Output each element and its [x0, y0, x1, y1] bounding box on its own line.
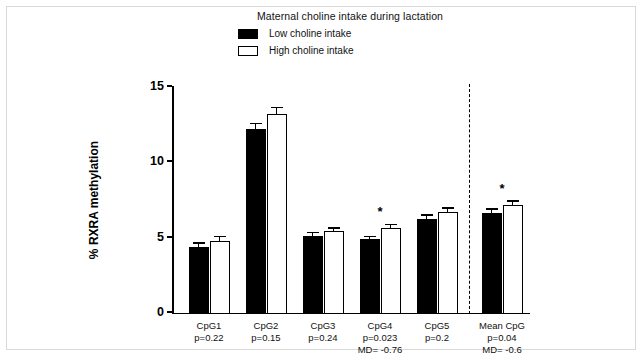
error-bar-stem	[390, 225, 392, 228]
error-bar-stem	[426, 216, 428, 219]
bar-cpg1-high	[210, 241, 230, 314]
x-label-pvalue: p=0.24	[308, 332, 337, 343]
x-label-md: MD= -0.6	[479, 344, 525, 355]
error-bar-cap	[364, 236, 376, 238]
y-axis-line	[172, 86, 174, 314]
legend-swatch-high-icon	[238, 46, 258, 56]
bar-cpg2-high	[267, 114, 287, 314]
y-tick-label: 5	[157, 230, 164, 244]
bar-cpg2-low	[246, 129, 266, 314]
x-label-pvalue: p=0.15	[251, 332, 280, 343]
error-bar-stem	[276, 108, 278, 113]
y-tick-5: 5	[157, 230, 172, 244]
group-separator-line	[469, 84, 470, 314]
error-bar-cap	[307, 232, 319, 234]
y-axis-title: % RXRA methylation	[87, 141, 101, 259]
error-bar-stem	[255, 124, 257, 129]
x-label-pvalue: p=0.04	[479, 332, 525, 343]
y-tick-label: 15	[150, 79, 164, 93]
bar-cpg5-high	[438, 212, 458, 314]
bar-mean-cpg-low	[482, 213, 502, 314]
error-bar-stem	[219, 237, 221, 241]
x-label-name: CpG2	[251, 320, 280, 331]
error-bar-cap	[250, 123, 262, 125]
legend-swatch-low-icon	[238, 29, 258, 39]
x-label-name: CpG3	[308, 320, 337, 331]
figure-container: Maternal choline intake during lactation…	[0, 0, 642, 356]
bar-cpg4-high	[381, 228, 401, 314]
error-bar-cap	[385, 224, 397, 226]
x-label-group-mean-cpg: Mean CpGp=0.04MD= -0.6	[479, 320, 525, 355]
x-label-group-cpg5: CpG5p=0.2	[425, 320, 450, 343]
y-tick-mark-icon	[167, 311, 172, 313]
x-label-group-cpg4: CpG4p=0.023MD= -0.76	[358, 320, 403, 355]
x-label-group-cpg2: CpG2p=0.15	[251, 320, 280, 343]
y-tick-label: 0	[157, 305, 164, 319]
error-bar-cap	[214, 236, 226, 238]
legend-item-high: High choline intake	[185, 45, 515, 56]
legend-item-low: Low choline intake	[185, 28, 515, 39]
legend-label-low: Low choline intake	[269, 28, 351, 39]
x-label-pvalue: p=0.22	[194, 332, 223, 343]
chart-title: Maternal choline intake during lactation	[185, 10, 515, 22]
significance-star-cpg4: *	[377, 205, 382, 218]
x-label-name: CpG4	[358, 320, 403, 331]
x-label-name: Mean CpG	[479, 320, 525, 331]
error-bar-cap	[193, 242, 205, 244]
y-tick-15: 15	[150, 79, 172, 93]
y-tick-0: 0	[157, 305, 172, 319]
x-label-name: CpG5	[425, 320, 450, 331]
bar-mean-cpg-high	[503, 205, 523, 314]
x-label-name: CpG1	[194, 320, 223, 331]
x-label-group-cpg3: CpG3p=0.24	[308, 320, 337, 343]
x-label-pvalue: p=0.023	[358, 332, 403, 343]
y-tick-10: 10	[150, 154, 172, 168]
y-tick-mark-icon	[167, 160, 172, 162]
error-bar-cap	[442, 207, 454, 209]
error-bar-stem	[369, 237, 371, 239]
bar-cpg1-low	[189, 247, 209, 314]
y-tick-label: 10	[150, 154, 164, 168]
y-tick-mark-icon	[167, 236, 172, 238]
error-bar-cap	[507, 200, 519, 202]
error-bar-stem	[512, 202, 514, 205]
bar-cpg3-high	[324, 231, 344, 314]
bar-cpg3-low	[303, 236, 323, 314]
x-label-md: MD= -0.76	[358, 344, 403, 355]
error-bar-stem	[312, 233, 314, 235]
bar-cpg4-low	[360, 239, 380, 314]
x-label-group-cpg1: CpG1p=0.22	[194, 320, 223, 343]
error-bar-stem	[333, 229, 335, 231]
bar-cpg5-low	[417, 219, 437, 314]
error-bar-cap	[328, 227, 340, 229]
y-tick-mark-icon	[167, 85, 172, 87]
error-bar-cap	[271, 107, 283, 109]
error-bar-cap	[486, 208, 498, 210]
error-bar-cap	[421, 214, 433, 216]
legend-label-high: High choline intake	[269, 45, 354, 56]
error-bar-stem	[491, 210, 493, 213]
plot-area: % RXRA methylation 051015 **	[172, 86, 530, 314]
error-bar-stem	[447, 209, 449, 212]
chart-legend: Maternal choline intake during lactation…	[185, 10, 515, 56]
x-label-pvalue: p=0.2	[425, 332, 450, 343]
error-bar-stem	[198, 244, 200, 247]
significance-star-mean-cpg: *	[499, 182, 504, 195]
